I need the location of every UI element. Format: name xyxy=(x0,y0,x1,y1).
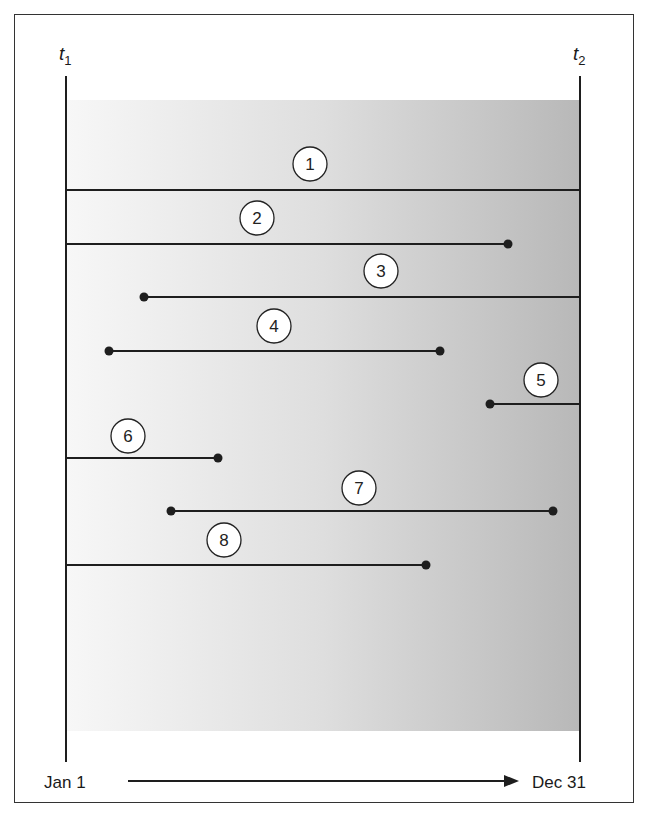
segment-label-circle: 8 xyxy=(207,523,241,557)
arrow-right-icon xyxy=(504,775,519,787)
t1-label: t1 xyxy=(59,43,72,68)
segment-label-circle: 3 xyxy=(364,254,398,288)
segment-label-circle: 2 xyxy=(240,201,274,235)
segment-label-circle: 5 xyxy=(524,363,558,397)
svg-text:6: 6 xyxy=(123,427,132,446)
observation-period-shade xyxy=(66,100,580,731)
svg-text:4: 4 xyxy=(269,317,278,336)
end-dot xyxy=(436,347,445,356)
axis-start-label: Jan 1 xyxy=(44,773,86,792)
axis-end-label: Dec 31 xyxy=(532,773,586,792)
svg-text:1: 1 xyxy=(305,155,314,174)
end-dot xyxy=(549,507,558,516)
svg-text:7: 7 xyxy=(354,479,363,498)
svg-text:5: 5 xyxy=(536,371,545,390)
start-dot xyxy=(105,347,114,356)
end-dot xyxy=(422,561,431,570)
end-dot xyxy=(504,240,513,249)
t2-label: t2 xyxy=(573,43,586,68)
start-dot xyxy=(486,400,495,409)
segment-label-circle: 4 xyxy=(257,309,291,343)
end-dot xyxy=(214,454,223,463)
start-dot xyxy=(167,507,176,516)
segment-label-circle: 7 xyxy=(342,471,376,505)
start-dot xyxy=(140,293,149,302)
svg-text:2: 2 xyxy=(252,209,261,228)
svg-text:8: 8 xyxy=(219,531,228,550)
segment-label-circle: 1 xyxy=(293,147,327,181)
segment-label-circle: 6 xyxy=(111,419,145,453)
timeline-diagram: t1 t2 1 2 3 4 xyxy=(0,0,649,832)
svg-text:3: 3 xyxy=(376,262,385,281)
